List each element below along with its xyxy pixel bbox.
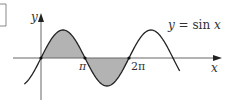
sine-chart: y x π 2π y = sin x	[0, 0, 229, 108]
cropped-frame	[0, 4, 6, 26]
tick-label-2pi: 2π	[131, 60, 145, 73]
tick-label-pi: π	[78, 60, 87, 73]
y-axis-label: y	[30, 10, 38, 24]
y-axis-arrow-icon	[38, 13, 44, 22]
x-axis-label: x	[211, 61, 218, 75]
axis-intercept-point	[39, 56, 42, 59]
function-label: y = sin x	[167, 18, 221, 32]
